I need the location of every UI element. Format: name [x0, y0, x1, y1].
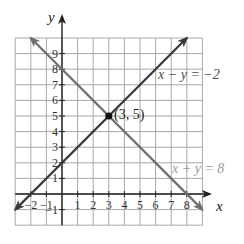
x-tick-label: 1	[75, 198, 81, 212]
y-tick-label: 4	[52, 125, 58, 139]
intersection-point	[105, 112, 112, 119]
x-tick-label: 2	[90, 198, 96, 212]
x-tick-label: −2	[24, 198, 37, 212]
intersection-label: (3, 5)	[114, 107, 145, 123]
y-tick-label: 9	[52, 47, 58, 61]
y-axis-label: y	[46, 9, 55, 25]
x-tick-label: 5	[137, 198, 143, 212]
y-tick-label: 6	[52, 93, 58, 107]
x-tick-label: 4	[121, 198, 127, 212]
y-tick-label: 7	[52, 78, 58, 92]
line2-label: x + y = 8	[171, 161, 224, 176]
line1-label: x − y = −2	[157, 67, 220, 82]
x-tick-label: 6	[153, 198, 159, 212]
y-tick-label: −1	[45, 203, 58, 217]
coordinate-plane: −2−112345678−1123456789 x y x − y = −2 x…	[0, 0, 244, 244]
y-tick-label: 1	[52, 171, 58, 185]
y-tick-label: 5	[52, 109, 58, 123]
x-axis-label: x	[215, 198, 223, 214]
x-tick-label: 3	[106, 198, 112, 212]
x-tick-label: 8	[184, 198, 190, 212]
y-tick-label: 3	[52, 140, 58, 154]
annotations: x y x − y = −2 x + y = 8 (3, 5)	[46, 9, 224, 214]
line-x-minus-y	[15, 38, 187, 210]
x-tick-label: 7	[168, 198, 174, 212]
